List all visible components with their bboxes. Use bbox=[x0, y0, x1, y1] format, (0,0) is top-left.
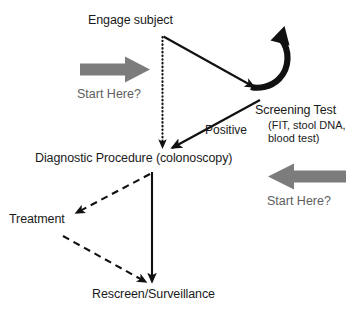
curved-loop-arrow-icon bbox=[251, 26, 290, 88]
block-arrow-left-icon bbox=[268, 164, 346, 190]
node-treatment: Treatment bbox=[9, 212, 65, 226]
node-rescreen-surveillance: Rescreen/Surveillance bbox=[92, 287, 215, 301]
diagram-canvas: Engage subject Screening Test (FIT, stoo… bbox=[0, 0, 356, 311]
edge-label-positive: Positive bbox=[205, 124, 247, 137]
node-screening-test-detail: (FIT, stool DNA, blood test) bbox=[268, 119, 346, 144]
edge-treatment-to-rescreen bbox=[63, 236, 146, 282]
screening-detail-line-1: (FIT, stool DNA, bbox=[268, 119, 346, 131]
callout-start-here-right: Start Here? bbox=[267, 194, 331, 208]
edge-diagnostic-to-treatment bbox=[76, 174, 150, 213]
callout-start-here-left: Start Here? bbox=[77, 87, 141, 101]
screening-detail-line-2: blood test) bbox=[268, 132, 319, 144]
edge-engage-to-screening bbox=[164, 37, 255, 88]
node-screening-test: Screening Test bbox=[255, 103, 336, 117]
node-engage-subject: Engage subject bbox=[88, 13, 173, 27]
node-diagnostic-procedure: Diagnostic Procedure (colonoscopy) bbox=[35, 151, 232, 165]
block-arrow-right-icon bbox=[80, 57, 150, 83]
